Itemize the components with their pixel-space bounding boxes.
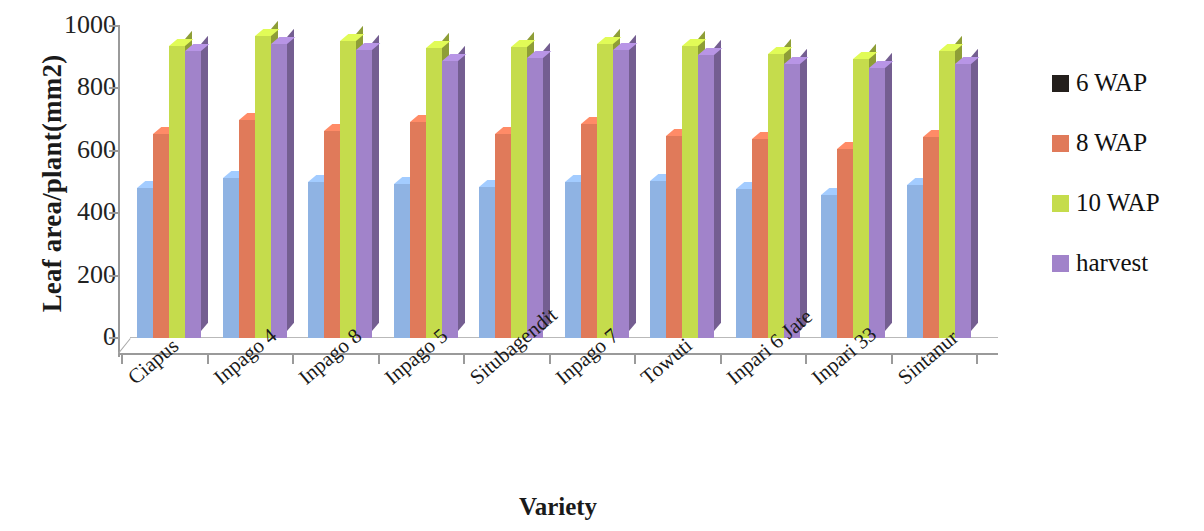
bar[interactable] (784, 64, 800, 338)
legend-swatch-icon (1052, 135, 1069, 152)
bar-side-face (287, 29, 294, 331)
bar-front-face (698, 55, 714, 338)
bar[interactable] (527, 58, 543, 338)
bar-front-face (137, 188, 153, 338)
y-tick-label: 200 (42, 262, 116, 288)
y-tick-label: 600 (42, 137, 116, 163)
bar-front-face (666, 136, 682, 338)
bar-front-face (853, 59, 869, 338)
bar-front-face (479, 187, 495, 338)
legend-item[interactable]: 8 WAP (1052, 130, 1202, 190)
bar-front-face (736, 189, 752, 338)
y-tick-mark (109, 212, 119, 214)
bar-side-face (885, 53, 892, 331)
bar[interactable] (169, 46, 185, 338)
bar[interactable] (666, 136, 682, 338)
y-tick-label: 0 (42, 324, 116, 350)
bar[interactable] (597, 44, 613, 338)
bar[interactable] (613, 50, 629, 338)
legend-item[interactable]: 10 WAP (1052, 190, 1202, 250)
bar-side-face (800, 49, 807, 331)
bar-group (565, 12, 629, 357)
bar[interactable] (239, 120, 255, 338)
legend-swatch-icon (1052, 195, 1069, 212)
bar-side-face (201, 36, 208, 331)
legend-swatch-icon (1052, 255, 1069, 272)
plot-floor-left-edge (118, 337, 132, 354)
bar[interactable] (153, 134, 169, 338)
bar-front-face (597, 44, 613, 338)
y-tick-mark (109, 150, 119, 152)
bar-front-face (784, 64, 800, 338)
bar-side-face (458, 46, 465, 331)
bar-front-face (442, 61, 458, 338)
bar[interactable] (869, 68, 885, 338)
bar-front-face (271, 44, 287, 338)
bar[interactable] (185, 51, 201, 338)
legend-item[interactable]: harvest (1052, 250, 1202, 310)
bar-front-face (923, 137, 939, 338)
bar[interactable] (955, 64, 971, 338)
legend-swatch-icon (1052, 75, 1069, 92)
bar[interactable] (511, 47, 527, 338)
chart-legend: 6 WAP8 WAP10 WAPharvest (1052, 70, 1202, 310)
bar-front-face (527, 58, 543, 338)
legend-label: 10 WAP (1076, 190, 1160, 215)
bar[interactable] (698, 55, 714, 338)
bar-front-face (153, 134, 169, 338)
bar-side-face (372, 35, 379, 331)
bar-front-face (837, 149, 853, 338)
bar-front-face (565, 182, 581, 338)
plot-area (118, 12, 998, 357)
bar[interactable] (752, 139, 768, 338)
bar[interactable] (479, 187, 495, 338)
bar[interactable] (356, 50, 372, 338)
bar[interactable] (410, 122, 426, 338)
bar-front-face (223, 178, 239, 338)
bar[interactable] (837, 149, 853, 338)
bar[interactable] (340, 41, 356, 338)
bar-front-face (255, 36, 271, 338)
bar[interactable] (255, 36, 271, 338)
bar[interactable] (768, 54, 784, 338)
bar[interactable] (907, 185, 923, 339)
bar[interactable] (442, 61, 458, 338)
bar-front-face (939, 51, 955, 338)
bar[interactable] (394, 184, 410, 338)
bar[interactable] (495, 134, 511, 338)
bar-front-face (495, 134, 511, 338)
bar-front-face (613, 50, 629, 338)
legend-label: 6 WAP (1076, 70, 1147, 95)
bar[interactable] (324, 131, 340, 338)
bar[interactable] (650, 181, 666, 338)
bar-front-face (394, 184, 410, 338)
bar[interactable] (581, 124, 597, 338)
bar[interactable] (271, 44, 287, 338)
bar-group (821, 12, 885, 357)
bar[interactable] (682, 46, 698, 338)
bar-front-face (907, 185, 923, 339)
bar-group (907, 12, 971, 357)
legend-item[interactable]: 6 WAP (1052, 70, 1202, 130)
bar[interactable] (923, 137, 939, 338)
bar[interactable] (426, 48, 442, 338)
bar[interactable] (939, 51, 955, 338)
bar-front-face (955, 64, 971, 338)
bar-front-face (511, 47, 527, 338)
bar-group (650, 12, 714, 357)
y-axis-line (118, 25, 120, 357)
bar[interactable] (565, 182, 581, 338)
bar[interactable] (853, 59, 869, 338)
bar[interactable] (223, 178, 239, 338)
legend-label: harvest (1076, 250, 1148, 275)
bar[interactable] (736, 189, 752, 338)
bar-front-face (239, 120, 255, 338)
x-axis-category-labels: CiapusInpago 4Inpago 8Inpago 5Situbagend… (118, 357, 1008, 477)
bar-front-face (650, 181, 666, 338)
bar[interactable] (137, 188, 153, 338)
bar-front-face (426, 48, 442, 338)
bar-side-face (543, 42, 550, 331)
bar[interactable] (308, 182, 324, 338)
y-tick-label: 800 (42, 74, 116, 100)
bar[interactable] (821, 195, 837, 338)
